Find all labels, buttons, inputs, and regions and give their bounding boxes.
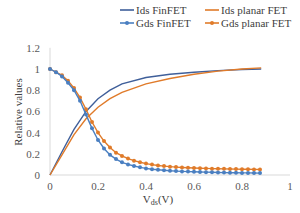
x-tick-label: 0.6 [187, 180, 201, 192]
data-point [180, 169, 184, 173]
data-point [162, 168, 166, 172]
data-point [168, 165, 172, 169]
data-point [180, 165, 184, 169]
x-tick-label: 0.4 [139, 180, 153, 192]
x-axis-label: Vds(V) [143, 193, 174, 207]
x-tick-label: 1 [287, 180, 293, 192]
data-point [204, 166, 208, 170]
data-point [174, 165, 178, 169]
data-point [240, 171, 244, 175]
y-tick-label: 0.2 [26, 148, 40, 160]
y-tick-label: 1 [35, 63, 41, 75]
data-point [246, 167, 250, 171]
data-point [60, 74, 64, 78]
data-point [156, 163, 160, 167]
data-point [198, 166, 202, 170]
legend: Ids FinFETGds FinFETIds planar FETGds pl… [120, 4, 292, 29]
data-point [234, 167, 238, 171]
svg-text:Ids planar FET: Ids planar FET [221, 4, 287, 16]
data-point [144, 166, 148, 170]
x-tick-label: 0.8 [235, 180, 249, 192]
data-point [174, 169, 178, 173]
svg-text:Ids FinFET: Ids FinFET [136, 4, 187, 16]
plot-area [48, 67, 262, 175]
data-point [258, 171, 262, 175]
x-tick-label: 0 [47, 180, 53, 192]
legend-item: Gds planar FET [205, 17, 292, 29]
data-point [138, 165, 142, 169]
data-point [210, 167, 214, 171]
y-tick-label: 1.2 [26, 42, 40, 54]
y-tick-label: 0.4 [26, 127, 40, 139]
y-tick-label: 0.6 [26, 105, 40, 117]
data-point [156, 168, 160, 172]
data-point [132, 164, 136, 168]
data-point [120, 160, 124, 164]
data-point [108, 153, 112, 157]
data-point [84, 113, 88, 117]
data-point [258, 167, 262, 171]
y-axis-label: Relative values [12, 78, 24, 146]
y-tick-label: 0 [35, 169, 41, 181]
data-point [168, 169, 172, 173]
data-point [126, 162, 130, 166]
y-tick-label: 0.8 [26, 84, 40, 96]
data-point [192, 166, 196, 170]
data-point [216, 170, 220, 174]
svg-text:Gds planar FET: Gds planar FET [221, 17, 292, 29]
data-point [96, 138, 100, 142]
legend-item: Ids FinFET [120, 4, 187, 16]
data-point [252, 167, 256, 171]
data-point [246, 171, 250, 175]
data-point [48, 67, 52, 71]
data-point [162, 164, 166, 168]
legend-item: Gds FinFET [120, 17, 191, 29]
data-point [216, 167, 220, 171]
data-point [102, 147, 106, 151]
data-point [54, 70, 58, 74]
data-point [132, 159, 136, 163]
data-point [120, 154, 124, 158]
data-point [222, 167, 226, 171]
data-point [150, 163, 154, 167]
data-point [126, 157, 130, 161]
data-point [186, 170, 190, 174]
data-point [186, 166, 190, 170]
legend-item: Ids planar FET [205, 4, 287, 16]
data-point [78, 99, 82, 103]
data-point [228, 167, 232, 171]
data-point [210, 170, 214, 174]
data-point [222, 171, 226, 175]
data-point [228, 171, 232, 175]
line-chart: 00.20.40.60.8100.20.40.60.811.2 Ids FinF… [0, 0, 300, 213]
series-ids-planar-fet [50, 68, 261, 175]
data-point [144, 162, 148, 166]
data-point [150, 167, 154, 171]
data-point [108, 145, 112, 149]
data-point [252, 171, 256, 175]
data-point [90, 120, 94, 124]
x-tick-label: 0.2 [91, 180, 105, 192]
data-point [204, 170, 208, 174]
data-point [192, 170, 196, 174]
svg-text:Gds FinFET: Gds FinFET [136, 17, 191, 29]
data-point [234, 171, 238, 175]
data-point [240, 167, 244, 171]
data-point [138, 160, 142, 164]
data-point [114, 151, 118, 155]
data-point [72, 88, 76, 92]
data-point [66, 81, 70, 85]
data-point [90, 126, 94, 130]
data-point [198, 170, 202, 174]
data-point [96, 131, 100, 135]
data-point [102, 139, 106, 143]
data-point [114, 157, 118, 161]
series-ids-finfet [50, 69, 261, 175]
